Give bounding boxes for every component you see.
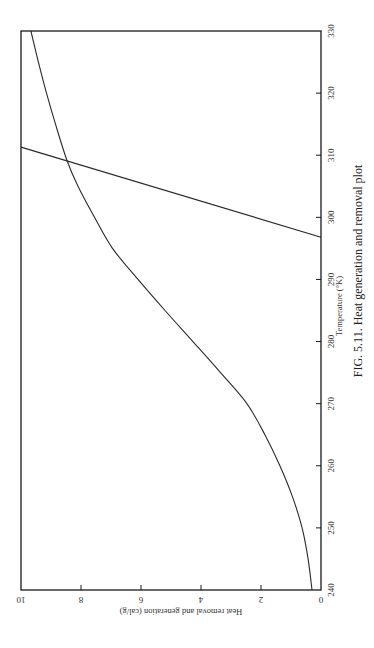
heat-generation-removal-chart: 2402502602702802903003103203300246810 Te…: [0, 0, 374, 648]
x-tick-label: 300: [326, 210, 336, 224]
y-tick-label: 10: [16, 595, 26, 605]
x-tick-label: 240: [326, 583, 336, 597]
figure-caption: FIG. 5.11. Heat generation and removal p…: [351, 164, 365, 377]
y-tick-label: 0: [318, 595, 323, 605]
y-tick-label: 4: [198, 595, 203, 605]
x-tick-label: 330: [326, 24, 336, 38]
y-tick-label: 8: [78, 595, 83, 605]
y-axis-label: Heat removal and generation (cal/g): [119, 607, 242, 617]
x-tick-label: 320: [326, 86, 336, 100]
tick-labels: 2402502602702802903003103203300246810: [16, 24, 336, 605]
x-axis-label: Temperature (°K): [334, 276, 344, 336]
axis-ticks: [81, 93, 321, 590]
x-tick-label: 260: [326, 459, 336, 473]
x-tick-label: 250: [326, 521, 336, 535]
heat-removal-line: [21, 147, 321, 237]
y-tick-label: 6: [138, 595, 143, 605]
x-tick-label: 270: [326, 396, 336, 410]
plot-frame: [21, 31, 321, 590]
x-tick-label: 310: [326, 148, 336, 162]
heat-generation-curve: [31, 31, 312, 590]
y-tick-label: 2: [259, 595, 264, 605]
